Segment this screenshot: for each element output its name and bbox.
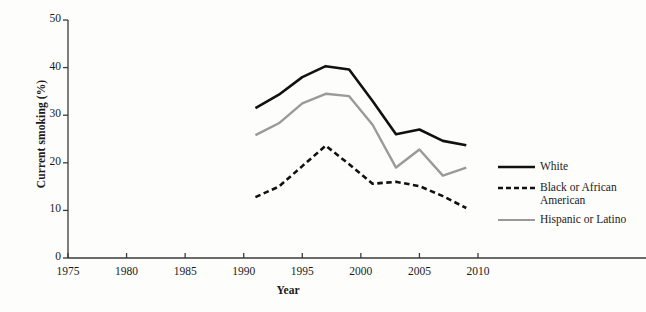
y-tick-label: 40 bbox=[33, 60, 61, 72]
legend-item: Black or African American bbox=[498, 181, 644, 206]
x-axis-title: Year bbox=[248, 284, 328, 296]
y-tick-label: 20 bbox=[33, 155, 61, 167]
legend-item: White bbox=[498, 160, 644, 174]
x-tick-label: 1995 bbox=[280, 265, 324, 277]
x-tick-label: 2000 bbox=[339, 265, 383, 277]
series-line bbox=[255, 66, 466, 145]
legend-line-swatch-icon bbox=[498, 181, 536, 195]
x-tick-label: 1985 bbox=[163, 265, 207, 277]
series-line bbox=[255, 146, 466, 208]
y-tick-label: 50 bbox=[33, 12, 61, 24]
legend-item-label: Black or African American bbox=[540, 181, 617, 206]
data-series-group bbox=[255, 66, 466, 208]
y-tick-label: 10 bbox=[33, 202, 61, 214]
series-line bbox=[255, 94, 466, 176]
x-tick-label: 1975 bbox=[46, 265, 90, 277]
legend-item-label: White bbox=[540, 160, 568, 173]
x-tick-label: 1990 bbox=[222, 265, 266, 277]
y-tick-label: 30 bbox=[33, 107, 61, 119]
legend-item: Hispanic or Latino bbox=[498, 213, 644, 227]
x-tick-label: 2010 bbox=[456, 265, 500, 277]
axis-ticks bbox=[63, 20, 478, 258]
y-tick-label: 0 bbox=[33, 250, 61, 262]
y-axis-title: Current smoking (%) bbox=[35, 59, 47, 209]
x-tick-label: 2005 bbox=[397, 265, 441, 277]
chart-legend: WhiteBlack or African AmericanHispanic o… bbox=[498, 160, 644, 234]
legend-line-swatch-icon bbox=[498, 213, 536, 227]
legend-item-label: Hispanic or Latino bbox=[540, 213, 626, 226]
smoking-prevalence-line-chart: Current smoking (%) Year 01020304050 197… bbox=[0, 0, 646, 312]
legend-line-swatch-icon bbox=[498, 160, 536, 174]
x-tick-label: 1980 bbox=[105, 265, 149, 277]
